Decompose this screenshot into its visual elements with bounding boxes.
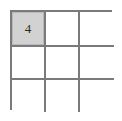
grid-cell-r3c2[interactable] xyxy=(46,80,80,112)
grid-cell-r1c1[interactable]: 4 xyxy=(12,12,46,47)
figure-canvas: 4 xyxy=(0,0,122,121)
grid-cell-r3c3[interactable] xyxy=(80,80,114,112)
puzzle-grid: 4 xyxy=(10,10,112,110)
grid-cell-r1c2[interactable] xyxy=(46,12,80,47)
grid-cell-r2c2[interactable] xyxy=(46,47,80,80)
grid-cell-r1c3[interactable] xyxy=(80,12,114,47)
grid-cell-value: 4 xyxy=(25,22,32,35)
grid-cell-r2c3[interactable] xyxy=(80,47,114,80)
grid-cell-r3c1[interactable] xyxy=(12,80,46,112)
grid-cell-r2c1[interactable] xyxy=(12,47,46,80)
